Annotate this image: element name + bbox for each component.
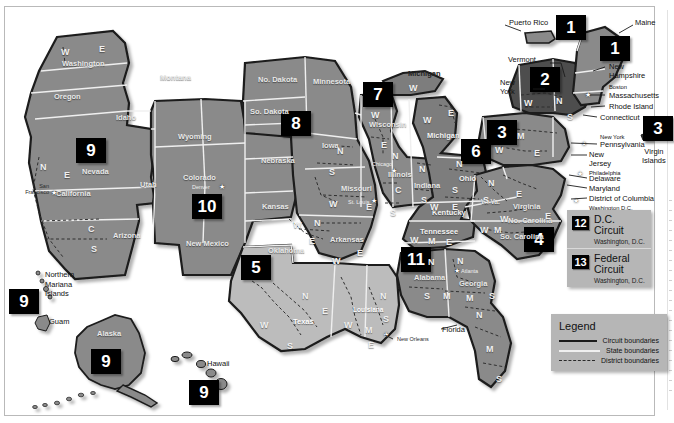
state-label-wyoming: Wyoming — [178, 132, 212, 141]
city-label-chicago: Chicago — [372, 161, 392, 167]
division-letter-pa-m: M — [517, 131, 525, 141]
badge-circuit-1-puerto-rico[interactable]: 1 — [556, 15, 586, 40]
division-letter-la-w: W — [344, 320, 353, 330]
division-letter-tn-e: E — [446, 237, 452, 247]
division-letter-fl-n: N — [476, 310, 483, 320]
division-letter-pa-e: E — [534, 148, 540, 158]
badge-label: 9 — [101, 352, 110, 372]
circuit-info-sub-federal: Washington, D.C. — [594, 277, 645, 284]
state-label-wisconsin: Wisconsin — [369, 120, 406, 129]
badge-circuit-9-west[interactable]: 9 — [76, 138, 106, 163]
state-label-texas: Texas — [293, 317, 314, 326]
badge-label: 3 — [653, 119, 662, 139]
badge-circuit-6[interactable]: 6 — [461, 139, 491, 164]
callout-label-new-hampshire: New Hampshire — [609, 62, 645, 80]
division-letter-ca-c: C — [88, 224, 95, 234]
callout-label-maine: Maine — [635, 18, 655, 27]
badge-circuit-13[interactable]: 13 — [572, 255, 589, 269]
circuit-info-title-dc: D.C. Circuit — [594, 214, 645, 236]
badge-circuit-9-alaska[interactable]: 9 — [91, 349, 121, 374]
division-letter-va-e: E — [516, 189, 522, 199]
badge-circuit-9-hawaii[interactable]: 9 — [189, 380, 219, 405]
division-letter-ca-e: E — [64, 170, 70, 180]
badge-circuit-3[interactable]: 3 — [487, 120, 517, 145]
badge-label: 7 — [373, 85, 382, 105]
legend-label-state: State boundaries — [606, 347, 659, 354]
division-letter-mi-e: E — [448, 108, 454, 118]
city-star-chicago: ★ — [391, 167, 397, 174]
division-letter-fl-m: M — [486, 344, 494, 354]
legend-title: Legend — [559, 320, 659, 332]
badge-circuit-7[interactable]: 7 — [363, 82, 393, 107]
division-letter-ny-w: W — [524, 98, 533, 108]
badge-circuit-3-virgin-islands[interactable]: 3 — [643, 116, 673, 141]
city-star-washington-dc: ★ — [573, 197, 579, 204]
state-label-michigan: Michigan — [427, 131, 460, 140]
division-letter-al-s: S — [424, 291, 430, 301]
division-letter-ca-n: N — [40, 162, 47, 172]
division-letter-la-m: M — [365, 325, 373, 335]
badge-circuit-2[interactable]: 2 — [530, 67, 560, 92]
state-label-kansas: Kansas — [262, 202, 289, 211]
division-letter-ny-n: N — [556, 96, 563, 106]
state-label-nevada: Nevada — [82, 167, 109, 176]
division-letter-al-n: N — [428, 257, 435, 267]
badge-label: 11 — [407, 250, 425, 270]
state-label-south-carolina: So. Carolina — [500, 233, 530, 241]
division-letter-pa-w: W — [495, 145, 504, 155]
city-star-st-louis: ★ — [371, 197, 377, 204]
legend-swatch-state-icon — [559, 347, 600, 354]
division-letter-ga-m: M — [466, 293, 474, 303]
badge-label: 8 — [291, 114, 300, 134]
division-letter-al-m: M — [443, 291, 451, 301]
state-label-louisiana: Louisiana — [353, 306, 383, 313]
division-letter-oh-n: N — [456, 159, 463, 169]
badge-circuit-1-maine[interactable]: 1 — [600, 36, 630, 61]
division-letter-oh-s: S — [452, 185, 458, 195]
city-label-san-francisco: San Francisco — [13, 183, 49, 195]
badge-circuit-11[interactable]: 11 — [401, 247, 431, 272]
callout-label-vermont: Vermont — [508, 55, 536, 64]
division-letter-nc-e: E — [545, 211, 551, 221]
division-letter-il-n: N — [392, 151, 399, 161]
division-letter-nc-m: M — [494, 225, 502, 235]
division-letter-la-e: E — [368, 340, 374, 350]
city-label-new-york: New York — [600, 133, 625, 142]
division-letter-ok-n: N — [314, 218, 321, 228]
badge-label: 10 — [198, 197, 217, 217]
legend-label-district: District boundaries — [601, 357, 659, 364]
badge-label: 9 — [86, 141, 95, 161]
division-letter-il-s: S — [390, 208, 396, 218]
page-right-rule — [667, 10, 668, 410]
circuit-info-row-dc[interactable]: 12 D.C. Circuit Washington, D.C. — [567, 210, 651, 248]
circuit-info-row-federal[interactable]: 13 Federal Circuit Washington, D.C. — [567, 248, 651, 287]
badge-circuit-9-pacific[interactable]: 9 — [9, 289, 39, 314]
city-label-boston: Boston — [609, 83, 627, 92]
state-label-arkansas: Arkansas — [330, 235, 364, 244]
city-star-atlanta: ★ — [454, 267, 460, 274]
badge-circuit-10[interactable]: 10 — [192, 194, 222, 219]
callout-label-new-york: New York — [500, 78, 515, 96]
badge-circuit-12[interactable]: 12 — [572, 216, 589, 230]
legend-item-circuit: Circuit boundaries — [559, 337, 659, 344]
division-letter-va-w: W — [480, 225, 489, 235]
division-letter-tx-n: N — [302, 291, 309, 301]
badge-circuit-5[interactable]: 5 — [241, 255, 271, 280]
legend: Legend Circuit boundaries State boundari… — [551, 314, 667, 371]
division-letter-mi-w: W — [423, 115, 432, 125]
city-star-san-francisco: ★ — [51, 189, 57, 196]
division-letter-il-c: C — [395, 185, 402, 195]
city-star-boston: ★ — [585, 91, 591, 98]
state-label-tennessee: Tennessee — [420, 227, 458, 236]
state-label-minnesota: Minnesota — [313, 77, 350, 86]
division-letter-in-s: S — [421, 195, 427, 205]
state-label-montana: Montana — [160, 73, 191, 82]
callout-label-hawaii: Hawaii — [207, 359, 230, 368]
city-label-new-orleans: New Orleans — [397, 336, 429, 342]
division-letter-ca-s: S — [91, 244, 97, 254]
city-label-denver: Denver — [192, 184, 210, 190]
badge-label: 1 — [610, 39, 619, 59]
division-letter-wa-w: W — [61, 47, 70, 57]
division-letter-tx-w: W — [260, 320, 269, 330]
state-label-oregon: Oregon — [54, 92, 81, 101]
